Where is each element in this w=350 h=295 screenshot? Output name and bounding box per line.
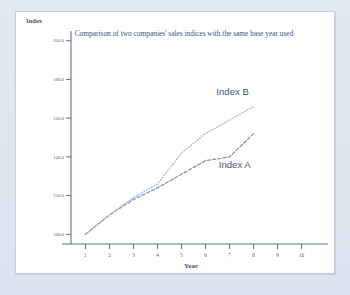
y-tick-label: 140.0 bbox=[53, 155, 64, 160]
x-tick-label: 7 bbox=[228, 252, 231, 258]
chart-card: Comparison of two companies' sales indic… bbox=[15, 11, 335, 274]
x-tick-label: 10 bbox=[299, 252, 305, 258]
y-axis-labels: 100.0120.0140.0160.0180.0200.0 bbox=[53, 38, 64, 237]
y-axis-ticks bbox=[66, 41, 71, 235]
x-tick-label: 5 bbox=[180, 252, 183, 258]
y-tick-label: 100.0 bbox=[53, 232, 64, 237]
x-tick-label: 1 bbox=[84, 252, 87, 258]
chart-title: Comparison of two companies' sales indic… bbox=[75, 29, 294, 38]
x-axis-title: Year bbox=[184, 262, 198, 270]
x-tick-label: 2 bbox=[108, 252, 111, 258]
series-label-index-b: Index B bbox=[216, 86, 249, 97]
x-tick-label: 3 bbox=[132, 252, 135, 258]
screenshot-root: Comparison of two companies' sales indic… bbox=[0, 0, 350, 295]
series-label-index-a: Index A bbox=[219, 159, 252, 170]
x-tick-label: 9 bbox=[276, 252, 279, 258]
x-tick-label: 4 bbox=[156, 252, 159, 258]
x-tick-label: 8 bbox=[252, 252, 255, 258]
line-chart: Comparison of two companies' sales indic… bbox=[16, 12, 336, 275]
series-labels: Index AIndex B bbox=[216, 86, 251, 171]
y-tick-label: 160.0 bbox=[53, 116, 64, 121]
y-tick-label: 200.0 bbox=[53, 38, 64, 43]
x-tick-label: 6 bbox=[204, 252, 207, 258]
series-line-index-a bbox=[85, 134, 253, 235]
x-axis-ticks bbox=[85, 244, 301, 249]
x-axis-labels: 12345678910 bbox=[84, 252, 304, 258]
y-tick-label: 180.0 bbox=[53, 77, 64, 82]
y-tick-label: 120.0 bbox=[53, 193, 64, 198]
y-axis-title: Index bbox=[26, 17, 43, 24]
